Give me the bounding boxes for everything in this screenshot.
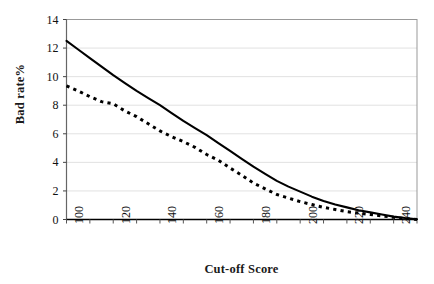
y-tick-label: 8 <box>29 99 59 111</box>
y-tick-label: 14 <box>29 14 59 26</box>
x-tick-label: 180 <box>259 190 273 224</box>
y-tick-label: 6 <box>29 128 59 140</box>
x-tick-label: 120 <box>119 190 133 224</box>
y-tick-label: 0 <box>29 214 59 226</box>
y-tick-label: 10 <box>29 71 59 83</box>
plot-canvas <box>0 0 434 284</box>
y-tick-label: 2 <box>29 185 59 197</box>
x-tick-label: 160 <box>212 190 226 224</box>
y-tick-label: 12 <box>29 42 59 54</box>
x-tick-label: 140 <box>165 190 179 224</box>
y-tick-label: 4 <box>29 156 59 168</box>
x-tick-label: 100 <box>72 190 86 224</box>
x-tick-label: 220 <box>352 190 366 224</box>
x-tick-label: 200 <box>306 190 320 224</box>
chart-figure: Bad rate% Cut-off Score 02468101214 1001… <box>0 0 434 284</box>
x-tick-label: 240 <box>399 190 413 224</box>
